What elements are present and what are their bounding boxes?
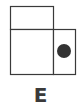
option-label: E (0, 84, 81, 106)
filled-dot-icon (57, 44, 71, 58)
option-figure (0, 0, 81, 80)
top-rect (11, 7, 54, 30)
bottom-left-rect (11, 30, 54, 75)
